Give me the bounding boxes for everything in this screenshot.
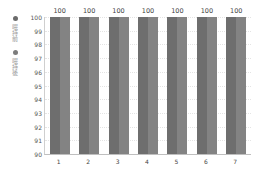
x-tick-label: 7 bbox=[228, 158, 242, 165]
y-tick-label: 97 bbox=[34, 55, 42, 62]
y-tick-label: 98 bbox=[34, 41, 42, 48]
bar-group: 100 bbox=[50, 17, 70, 154]
y-axis: 10099989796959493929190 bbox=[30, 17, 42, 157]
y-tick-label: 100 bbox=[31, 14, 42, 21]
legend-dot-icon bbox=[13, 50, 18, 55]
bar[interactable] bbox=[79, 17, 89, 154]
data-label: 100 bbox=[104, 7, 134, 15]
bar-group: 100 bbox=[197, 17, 217, 154]
x-tick-label: 4 bbox=[140, 158, 154, 165]
bar-group: 100 bbox=[79, 17, 99, 154]
y-tick-label: 96 bbox=[34, 68, 42, 75]
bar[interactable] bbox=[89, 17, 99, 154]
bar-group: 100 bbox=[109, 17, 129, 154]
bar[interactable] bbox=[236, 17, 246, 154]
data-label: 100 bbox=[74, 7, 104, 15]
bar[interactable] bbox=[197, 17, 207, 154]
data-label: 100 bbox=[221, 7, 251, 15]
data-label: 100 bbox=[192, 7, 222, 15]
x-tick-label: 3 bbox=[111, 158, 125, 165]
y-tick-label: 93 bbox=[34, 109, 42, 116]
bar[interactable] bbox=[207, 17, 217, 154]
x-tick-label: 5 bbox=[169, 158, 183, 165]
plot-area: 100100100100100100100 bbox=[44, 17, 251, 155]
legend-item-before[interactable]: 喂持前 bbox=[8, 16, 22, 42]
bar[interactable] bbox=[60, 17, 70, 154]
bar-group: 100 bbox=[138, 17, 158, 154]
bar-group: 100 bbox=[167, 17, 187, 154]
bar[interactable] bbox=[177, 17, 187, 154]
bar[interactable] bbox=[138, 17, 148, 154]
y-tick-label: 94 bbox=[34, 96, 42, 103]
x-tick-label: 6 bbox=[199, 158, 213, 165]
data-label: 100 bbox=[162, 7, 192, 15]
legend-label: 喂持前 bbox=[12, 24, 19, 42]
y-tick-label: 95 bbox=[34, 82, 42, 89]
bar[interactable] bbox=[148, 17, 158, 154]
legend-item-after[interactable]: 喂持後 bbox=[8, 50, 22, 76]
bar-group: 100 bbox=[226, 17, 246, 154]
legend-label: 喂持後 bbox=[12, 58, 19, 76]
y-tick-label: 90 bbox=[34, 151, 42, 158]
x-tick-label: 1 bbox=[52, 158, 66, 165]
data-label: 100 bbox=[45, 7, 75, 15]
legend-dot-icon bbox=[13, 16, 18, 21]
data-label: 100 bbox=[133, 7, 163, 15]
bar[interactable] bbox=[109, 17, 119, 154]
y-tick-label: 91 bbox=[34, 137, 42, 144]
x-tick-label: 2 bbox=[81, 158, 95, 165]
legend: 喂持前 喂持後 bbox=[8, 16, 22, 84]
bar[interactable] bbox=[167, 17, 177, 154]
y-tick-label: 92 bbox=[34, 123, 42, 130]
bar[interactable] bbox=[226, 17, 236, 154]
y-tick-label: 99 bbox=[34, 27, 42, 34]
bar[interactable] bbox=[119, 17, 129, 154]
bar[interactable] bbox=[50, 17, 60, 154]
